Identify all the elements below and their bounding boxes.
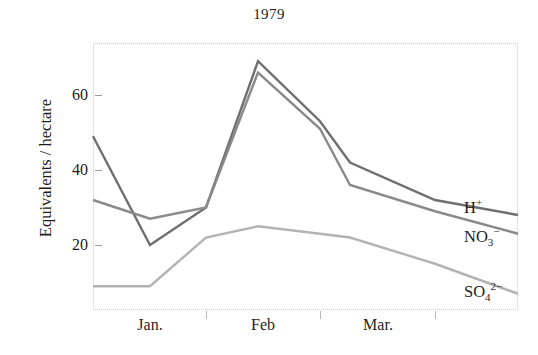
x-tick-label-mar: Mar. [343,316,413,334]
y-tick-label-60: 60 [48,86,88,104]
y-tick-mark-60 [95,95,102,96]
x-tick-mark-3 [435,311,436,319]
series-label-so4-base: SO [464,282,485,301]
y-tick-mark-40 [95,170,102,171]
series-label-h-plus-base: H [464,198,476,217]
series-label-h-plus: H+ [464,196,482,218]
x-tick-label-jan: Jan. [115,316,185,334]
series-label-no3-base: NO [464,227,488,246]
series-label-no3: NO3− [464,225,500,248]
x-tick-mark-1 [206,311,207,319]
x-tick-label-feb: Feb [228,316,298,334]
chart-title: 1979 [0,6,538,23]
y-tick-mark-20 [95,245,102,246]
series-label-so4-charge: 2− [491,280,503,292]
plot-area-frame [93,43,518,310]
series-label-so4: SO42− [464,280,502,303]
x-tick-mark-2 [320,311,321,319]
y-tick-label-20: 20 [48,236,88,254]
series-label-no3-count: 3 [488,236,494,248]
series-label-h-plus-charge: + [476,196,482,208]
series-label-so4-count: 4 [485,291,491,303]
series-label-no3-charge: − [493,225,499,237]
chart-page: 1979 Equivalents / hectare 60 40 20 Jan.… [0,0,538,355]
y-tick-label-40: 40 [48,161,88,179]
